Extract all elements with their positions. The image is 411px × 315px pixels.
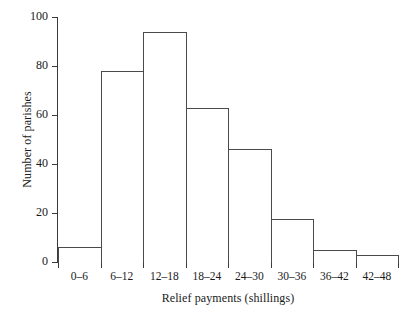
- histogram-figure: Number of parishes 020406080100 0–66–121…: [0, 0, 411, 315]
- x-category-label: 42–48: [356, 268, 399, 284]
- y-axis-title: Number of parishes: [18, 17, 36, 262]
- histogram-bar: [356, 255, 400, 263]
- x-category-label: 0–6: [58, 268, 101, 284]
- x-category-label: 6–12: [101, 268, 144, 284]
- y-tick-20: 20: [52, 213, 57, 214]
- y-tick-label-40: 40: [36, 156, 48, 171]
- y-tick-label-60: 60: [36, 107, 48, 122]
- y-tick-label-80: 80: [36, 58, 48, 73]
- histogram-bar: [58, 247, 102, 263]
- plot-area: [58, 17, 398, 262]
- x-category-label: 24–30: [228, 268, 271, 284]
- y-tick-label-0: 0: [42, 254, 48, 269]
- histogram-bar: [186, 108, 230, 263]
- x-category-label: 36–42: [313, 268, 356, 284]
- histogram-bar: [313, 250, 357, 263]
- y-tick-label-100: 100: [30, 9, 48, 24]
- histogram-bar: [143, 32, 187, 263]
- y-tick-80: 80: [52, 66, 57, 67]
- x-category-label: 18–24: [186, 268, 229, 284]
- x-axis-title: Relief payments (shillings): [58, 291, 398, 305]
- x-category-label: 12–18: [143, 268, 186, 284]
- x-category-label: 30–36: [271, 268, 314, 284]
- y-tick-60: 60: [52, 115, 57, 116]
- histogram-bar: [271, 219, 315, 263]
- histogram-bar: [228, 149, 272, 263]
- y-tick-label-20: 20: [36, 205, 48, 220]
- y-tick-40: 40: [52, 164, 57, 165]
- y-tick-0: 0: [52, 262, 57, 263]
- histogram-bar: [101, 71, 145, 263]
- x-tick-8: [398, 263, 399, 268]
- y-tick-100: 100: [52, 17, 57, 18]
